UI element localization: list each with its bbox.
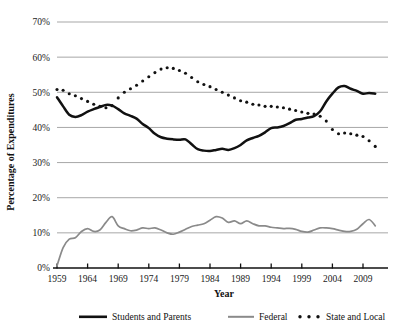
data-point [184,72,187,75]
legend-label: Federal [259,312,288,322]
legend-marker-dotted [307,315,310,318]
x-axis-tick-labels: 1959196419691974197919841989199419992004… [48,274,373,284]
series-state-and-local [55,66,376,148]
legend-marker-dotted [316,315,319,318]
data-point [331,128,334,131]
x-tick-label: 1974 [139,274,158,284]
data-point [62,89,65,92]
x-tick-label: 1964 [78,274,97,284]
data-point [251,103,254,106]
data-point [300,110,303,113]
data-point [215,88,218,91]
series-lines [55,66,376,266]
data-point [166,66,169,69]
data-point [147,75,150,78]
data-point [221,91,224,94]
data-point [178,69,181,72]
data-point [368,139,371,142]
data-point [117,96,120,99]
data-point [306,112,309,115]
data-point [245,101,248,104]
data-point [355,134,358,137]
x-tick-label: 1994 [262,274,281,284]
chart-legend: Students and ParentsFederalState and Loc… [79,312,385,322]
x-tick-label: 1999 [292,274,311,284]
y-axis-tick-labels: 0%10%20%30%40%50%60%70% [33,17,51,273]
y-tick-label: 30% [33,158,51,168]
data-point [233,96,236,99]
data-point [227,94,230,97]
y-tick-label: 10% [33,228,51,238]
data-point [92,103,95,106]
data-point [349,132,352,135]
x-tick-label: 1969 [109,274,128,284]
legend-marker-dotted [298,315,301,318]
legend-label: State and Local [326,312,385,322]
data-point [104,106,107,109]
legend-label: Students and Parents [112,312,191,322]
data-point [361,135,364,138]
data-point [312,113,315,116]
y-tick-label: 60% [33,53,51,63]
y-tick-label: 40% [33,123,51,133]
data-point [98,105,101,108]
legend-item: State and Local [298,312,385,322]
y-axis-title: Percentage of Expenditures [5,93,16,211]
data-point [202,83,205,86]
data-point [190,76,193,79]
x-tick-label: 1979 [170,274,189,284]
data-point [111,104,114,107]
data-point [239,99,242,102]
data-point [135,84,138,87]
x-tick-label: 1989 [231,274,250,284]
data-point [129,87,132,90]
data-point [172,67,175,70]
data-point [123,91,126,94]
x-tick-label: 2004 [323,274,342,284]
y-tick-label: 70% [33,17,51,27]
data-point [68,92,71,95]
chart-container: 0%10%20%30%40%50%60%70% 1959196419691974… [0,0,399,334]
x-axis [53,264,388,269]
data-point [196,80,199,83]
data-point [141,79,144,82]
data-point [86,100,89,103]
y-tick-label: 50% [33,88,51,98]
data-point [74,94,77,97]
legend-item: Federal [228,312,288,322]
data-point [264,105,267,108]
x-tick-label: 1959 [48,274,67,284]
y-tick-label: 0% [37,263,50,273]
data-point [325,120,328,123]
data-point [257,103,260,106]
data-point [153,71,156,74]
data-point [270,105,273,108]
legend-item: Students and Parents [79,312,191,322]
data-point [159,68,162,71]
y-tick-label: 20% [33,193,51,203]
data-point [282,106,285,109]
series-students-and-parents [57,86,375,151]
data-point [319,115,322,118]
data-point [288,108,291,111]
data-point [276,106,279,109]
line-chart: 0%10%20%30%40%50%60%70% 1959196419691974… [0,0,399,334]
data-point [343,132,346,135]
series-federal [57,217,375,266]
data-point [374,145,377,148]
x-tick-label: 2009 [354,274,373,284]
data-point [80,97,83,100]
data-point [208,85,211,88]
x-tick-label: 1984 [201,274,220,284]
x-axis-title: Year [214,288,235,299]
data-point [294,109,297,112]
gridlines [57,22,388,233]
data-point [337,132,340,135]
data-point [55,88,58,91]
